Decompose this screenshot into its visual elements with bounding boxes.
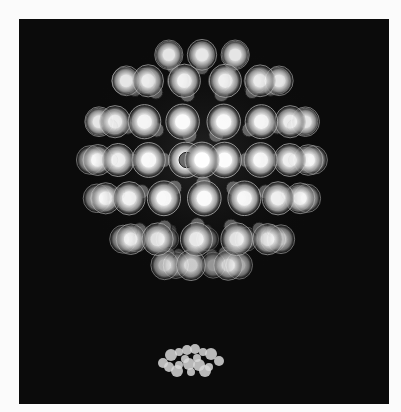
photograph-frame: [19, 19, 389, 404]
reflection-cluster: [158, 344, 224, 377]
light-sphere-photo: [19, 19, 389, 404]
